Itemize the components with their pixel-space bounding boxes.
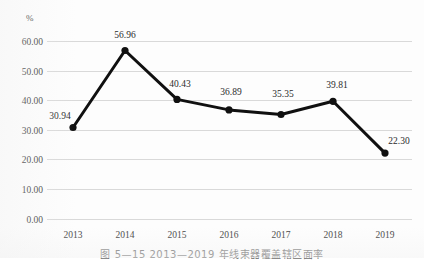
data-point-2015 bbox=[173, 96, 180, 103]
y-tick-label: 10.00 bbox=[22, 185, 44, 195]
x-axis-tick-labels: 2013 2014 2015 2016 2017 2018 2019 bbox=[64, 230, 395, 240]
y-axis-tick-labels: 60.00 50.00 40.00 30.00 20.00 10.00 0.00 bbox=[22, 37, 44, 225]
data-point-2018 bbox=[329, 98, 336, 105]
gridlines bbox=[47, 42, 412, 220]
data-label-2016: 36.89 bbox=[220, 87, 242, 97]
data-point-2019 bbox=[381, 150, 388, 157]
x-tick-label: 2013 bbox=[64, 230, 83, 240]
y-tick-label: 60.00 bbox=[22, 37, 44, 47]
x-tick-label: 2015 bbox=[168, 230, 187, 240]
data-label-2013: 30.94 bbox=[49, 111, 71, 121]
data-point-2014 bbox=[121, 47, 128, 54]
data-point-2017 bbox=[277, 111, 284, 118]
x-tick-label: 2019 bbox=[376, 230, 395, 240]
data-label-2014: 56.96 bbox=[114, 30, 136, 40]
y-tick-label: 0.00 bbox=[26, 215, 43, 225]
y-tick-label: 20.00 bbox=[22, 155, 44, 165]
x-tick-label: 2018 bbox=[324, 230, 343, 240]
data-label-2015: 40.43 bbox=[169, 79, 191, 89]
series-line bbox=[73, 51, 385, 154]
x-tick-label: 2014 bbox=[116, 230, 135, 240]
data-labels: 30.94 56.96 40.43 36.89 35.35 39.81 22.3… bbox=[49, 30, 410, 146]
x-tick-label: 2016 bbox=[220, 230, 239, 240]
y-tick-label: 40.00 bbox=[22, 96, 44, 106]
x-tick-label: 2017 bbox=[272, 230, 291, 240]
data-point-2016 bbox=[225, 106, 232, 113]
data-label-2019: 22.30 bbox=[388, 136, 410, 146]
y-axis-unit-label: % bbox=[26, 13, 34, 23]
data-point-2013 bbox=[69, 124, 76, 131]
data-label-2017: 35.35 bbox=[272, 89, 294, 99]
figure-caption: 图 5—15 2013—2019 年线束器覆盖辖区面率 bbox=[0, 246, 424, 261]
data-label-2018: 39.81 bbox=[326, 80, 348, 90]
y-tick-label: 30.00 bbox=[22, 126, 44, 136]
y-tick-label: 50.00 bbox=[22, 67, 44, 77]
